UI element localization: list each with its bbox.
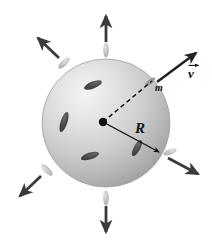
figure-canvas: [0, 0, 212, 246]
mass-label-m: m: [155, 83, 163, 93]
escaping-particle-up: [103, 43, 109, 58]
radius-label-R: R: [135, 121, 145, 136]
velocity-label-group: v: [188, 62, 204, 82]
expanding-sphere-figure: R m v: [0, 0, 212, 246]
escaping-particle-down: [103, 191, 109, 206]
radial-arrow-up-left: [38, 38, 59, 58]
velocity-label-v: v: [188, 67, 194, 80]
escaping-particle-down-left: [40, 163, 55, 178]
radial-arrow-down-right: [168, 158, 198, 174]
radial-arrow-down-left: [20, 176, 41, 196]
sphere-center-dot: [99, 118, 107, 126]
